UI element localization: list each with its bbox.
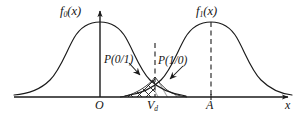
axis-label-amplitude: A <box>206 99 213 111</box>
annotation-label-p-false-alarm: P(1/0) <box>158 55 187 67</box>
curve-label-f0: f0(x) <box>60 5 81 18</box>
annotation-label-p-miss: P(0/1) <box>104 54 133 66</box>
axis-label-x: x <box>285 99 290 111</box>
axis-label-origin: O <box>95 99 104 111</box>
axis-label-threshold: Vd <box>147 99 158 111</box>
leader-p-false-alarm <box>170 66 183 79</box>
probability-density-figure: f0(x) f1(x) P(0/1) P(1/0) O Vd A x <box>0 0 302 120</box>
curve-label-f1: f1(x) <box>196 5 217 18</box>
